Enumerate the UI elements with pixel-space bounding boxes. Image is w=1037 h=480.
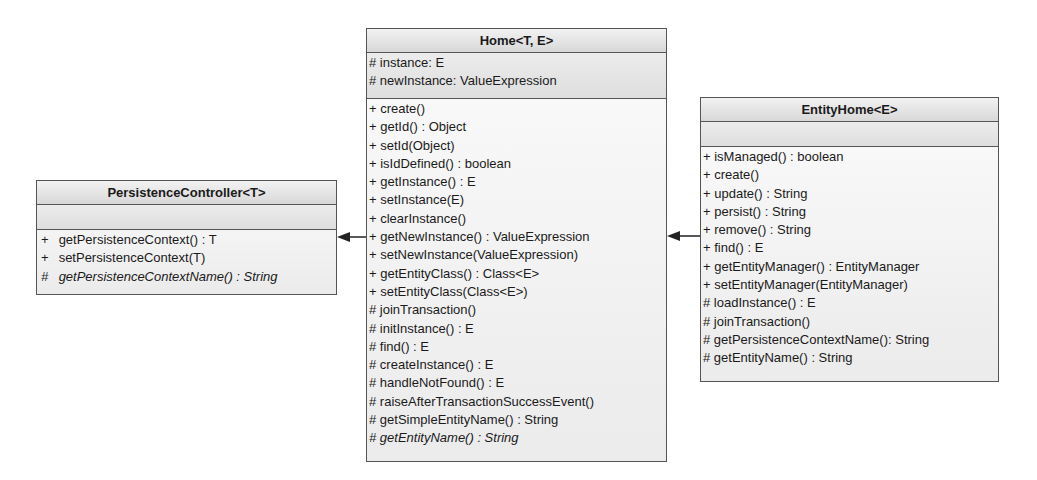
relations-layer <box>0 0 1037 480</box>
generalization-home-to-persistence-controller <box>337 232 366 242</box>
generalization-entity-home-to-home <box>667 231 700 241</box>
arrowhead-icon <box>337 232 350 242</box>
arrowhead-icon <box>667 231 680 241</box>
